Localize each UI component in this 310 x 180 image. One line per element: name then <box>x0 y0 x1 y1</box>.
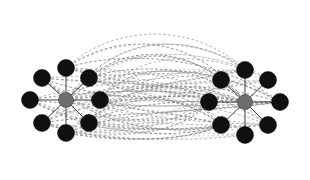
graph-leaf-node[interactable] <box>22 92 39 109</box>
graph-hub-node[interactable] <box>59 93 74 108</box>
graph-leaf-node[interactable] <box>58 125 75 142</box>
graph-leaf-node[interactable] <box>58 60 75 77</box>
graph-leaf-node[interactable] <box>34 70 51 87</box>
graph-canvas <box>0 0 310 180</box>
graph-leaf-node[interactable] <box>237 127 254 144</box>
graph-leaf-node[interactable] <box>260 72 277 89</box>
network-graph-figure <box>0 0 310 180</box>
graph-leaf-node[interactable] <box>81 70 98 87</box>
graph-leaf-node[interactable] <box>237 62 254 79</box>
graph-leaf-node[interactable] <box>213 117 230 134</box>
graph-leaf-node[interactable] <box>81 115 98 132</box>
graph-hub-node[interactable] <box>238 95 253 110</box>
graph-leaf-node[interactable] <box>34 115 51 132</box>
graph-leaf-node[interactable] <box>92 92 109 109</box>
graph-leaf-node[interactable] <box>213 72 230 89</box>
graph-leaf-node[interactable] <box>272 94 289 111</box>
graph-leaf-node[interactable] <box>260 117 277 134</box>
graph-leaf-node[interactable] <box>201 94 218 111</box>
